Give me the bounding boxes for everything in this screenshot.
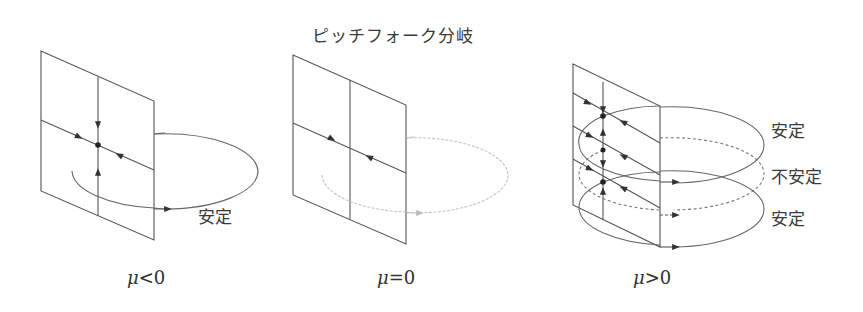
cycle-label-lower-stable: 安定 — [771, 205, 805, 230]
cycle-label-unstable: 不安定 — [771, 163, 822, 188]
section-plane — [573, 64, 660, 247]
fixed-point-upper-stable — [600, 113, 606, 119]
cycle-label-upper-stable: 安定 — [771, 117, 805, 142]
bifurcation-diagram — [0, 0, 863, 312]
condition-mu-negative: μ<0 — [127, 267, 165, 288]
panel-mu-positive — [573, 64, 764, 247]
panel-mu-zero — [293, 55, 508, 244]
fixed-point — [95, 142, 101, 148]
fixed-point-middle-unstable — [601, 148, 606, 153]
fixed-point-lower-stable — [600, 179, 606, 185]
condition-mu-positive: μ>0 — [633, 267, 671, 288]
cycle-label-stable: 安定 — [198, 203, 232, 228]
condition-mu-zero: μ=0 — [377, 267, 415, 288]
